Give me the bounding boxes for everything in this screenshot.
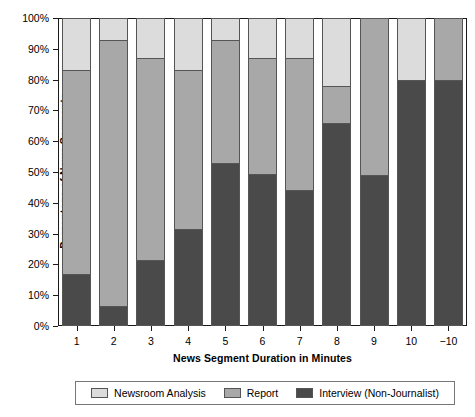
- bar-segment[interactable]: [248, 58, 277, 174]
- y-axis-tick: [53, 326, 58, 327]
- y-axis-tick-label: 90%: [9, 43, 49, 55]
- bar-segment[interactable]: [136, 260, 165, 326]
- stacked-bar[interactable]: [285, 18, 314, 326]
- bar-segment[interactable]: [99, 18, 128, 40]
- bar-segment[interactable]: [248, 18, 277, 58]
- legend-item[interactable]: Interview (Non-Journalist): [296, 387, 439, 399]
- y-axis-tick: [53, 49, 58, 50]
- y-axis-tick-label: 40%: [9, 197, 49, 209]
- bar-slot: [430, 18, 467, 326]
- y-axis-tick: [53, 234, 58, 235]
- bar-slot: [281, 18, 318, 326]
- y-axis-tick: [53, 110, 58, 111]
- bar-slot: [318, 18, 355, 326]
- bar-segment[interactable]: [174, 229, 203, 326]
- x-axis-tick-label: 4: [185, 335, 191, 347]
- x-axis-tick-label: 9: [371, 335, 377, 347]
- bar-segment[interactable]: [136, 18, 165, 58]
- bar-segment[interactable]: [434, 80, 463, 326]
- legend-item[interactable]: Newsroom Analysis: [91, 387, 206, 399]
- x-axis-tick: [300, 326, 301, 331]
- x-axis-tick-label: 7: [297, 335, 303, 347]
- bar-segment[interactable]: [322, 123, 351, 326]
- stacked-bar[interactable]: [360, 18, 389, 326]
- x-axis-tick: [77, 326, 78, 331]
- stacked-bar[interactable]: [397, 18, 426, 326]
- bar-segment[interactable]: [62, 70, 91, 273]
- bar-segment[interactable]: [62, 18, 91, 70]
- stacked-bar[interactable]: [434, 18, 463, 326]
- bar-segment[interactable]: [434, 18, 463, 80]
- x-axis-tick-label: 1: [74, 335, 80, 347]
- bar-slot: [132, 18, 169, 326]
- bar-segment[interactable]: [360, 18, 389, 175]
- y-axis-tick-label: 50%: [9, 166, 49, 178]
- bar-segment[interactable]: [99, 40, 128, 306]
- stacked-bar[interactable]: [211, 18, 240, 326]
- bar-segment[interactable]: [322, 18, 351, 86]
- stacked-bar-chart: Percentage of News Segments 0%10%20%30%4…: [0, 0, 475, 417]
- bar-slot: [356, 18, 393, 326]
- stacked-bar[interactable]: [136, 18, 165, 326]
- bar-slot: [244, 18, 281, 326]
- y-axis-tick-label: 20%: [9, 258, 49, 270]
- y-axis-tick-label: 80%: [9, 74, 49, 86]
- x-axis-title: News Segment Duration in Minutes: [58, 352, 467, 364]
- bar-slot: [207, 18, 244, 326]
- stacked-bar[interactable]: [248, 18, 277, 326]
- bar-segment[interactable]: [211, 40, 240, 163]
- x-axis-tick: [337, 326, 338, 331]
- x-axis-tick-label: 6: [260, 335, 266, 347]
- legend-label: Report: [247, 387, 279, 399]
- legend-item[interactable]: Report: [224, 387, 279, 399]
- stacked-bar[interactable]: [322, 18, 351, 326]
- x-axis-tick: [225, 326, 226, 331]
- bar-segment[interactable]: [211, 18, 240, 40]
- bar-segment[interactable]: [322, 86, 351, 123]
- bar-slot: [58, 18, 95, 326]
- bar-segment[interactable]: [174, 70, 203, 229]
- plot-area: 0%10%20%30%40%50%60%70%80%90%100% 123456…: [58, 18, 467, 326]
- x-axis-tick-label: 5: [222, 335, 228, 347]
- chart-legend: Newsroom AnalysisReportInterview (Non-Jo…: [75, 381, 455, 405]
- bar-segment[interactable]: [62, 274, 91, 326]
- bar-segment[interactable]: [285, 18, 314, 58]
- y-axis-tick: [53, 264, 58, 265]
- y-axis-tick-label: 60%: [9, 135, 49, 147]
- x-axis-tick: [263, 326, 264, 331]
- bar-segment[interactable]: [397, 80, 426, 326]
- bar-slot: [170, 18, 207, 326]
- legend-swatch-icon: [296, 388, 313, 398]
- y-axis-tick-label: 10%: [9, 289, 49, 301]
- x-axis-tick-label: 2: [111, 335, 117, 347]
- x-axis-tick: [151, 326, 152, 331]
- y-axis-tick: [53, 80, 58, 81]
- y-axis-tick: [53, 141, 58, 142]
- bar-segment[interactable]: [285, 190, 314, 326]
- bar-slot: [95, 18, 132, 326]
- y-axis-tick-label: 70%: [9, 104, 49, 116]
- bar-segment[interactable]: [99, 306, 128, 326]
- stacked-bar[interactable]: [62, 18, 91, 326]
- bar-segment[interactable]: [360, 175, 389, 326]
- bar-segment[interactable]: [285, 58, 314, 190]
- x-axis-tick: [411, 326, 412, 331]
- bar-segment[interactable]: [136, 58, 165, 260]
- x-axis-tick-label: 8: [334, 335, 340, 347]
- bar-segment[interactable]: [174, 18, 203, 70]
- x-axis-tick-label: −10: [440, 335, 458, 347]
- y-axis-tick-label: 100%: [9, 12, 49, 24]
- stacked-bar[interactable]: [99, 18, 128, 326]
- x-axis-tick: [188, 326, 189, 331]
- stacked-bar[interactable]: [174, 18, 203, 326]
- y-axis-tick: [53, 18, 58, 19]
- y-axis-tick-label: 30%: [9, 228, 49, 240]
- bar-segment[interactable]: [397, 18, 426, 80]
- x-axis-tick: [114, 326, 115, 331]
- legend-swatch-icon: [224, 388, 241, 398]
- legend-label: Interview (Non-Journalist): [319, 387, 439, 399]
- bar-segment[interactable]: [211, 163, 240, 326]
- bar-segment[interactable]: [248, 174, 277, 326]
- x-axis-tick: [448, 326, 449, 331]
- y-axis-tick: [53, 295, 58, 296]
